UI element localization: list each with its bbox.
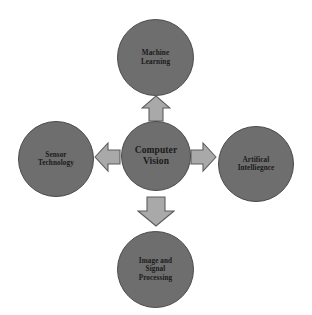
- node-sensor-technology[interactable]: Sensor Technology: [18, 121, 94, 197]
- node-sensor-technology-label: Sensor Technology: [34, 151, 78, 167]
- node-computer-vision-label: Computer Vision: [131, 145, 182, 166]
- node-machine-learning-label: Machine Learning: [137, 49, 174, 65]
- node-computer-vision[interactable]: Computer Vision: [121, 121, 191, 191]
- node-machine-learning[interactable]: Machine Learning: [117, 19, 194, 96]
- node-artificial-intelligence-label: Artifical Intelliegnce: [234, 156, 279, 172]
- arrow-right-icon: [190, 142, 217, 173]
- node-image-and-signal-processing-label: Image and Signal Processing: [135, 257, 177, 281]
- arrow-up-icon: [141, 95, 171, 122]
- node-image-and-signal-processing[interactable]: Image and Signal Processing: [117, 231, 194, 308]
- arrow-down-icon: [137, 196, 175, 227]
- node-artificial-intelligence[interactable]: Artifical Intelliegnce: [218, 126, 294, 202]
- concept-diagram: Machine Learning Artifical Intelliegnce …: [0, 0, 312, 315]
- arrow-left-icon: [94, 142, 121, 173]
